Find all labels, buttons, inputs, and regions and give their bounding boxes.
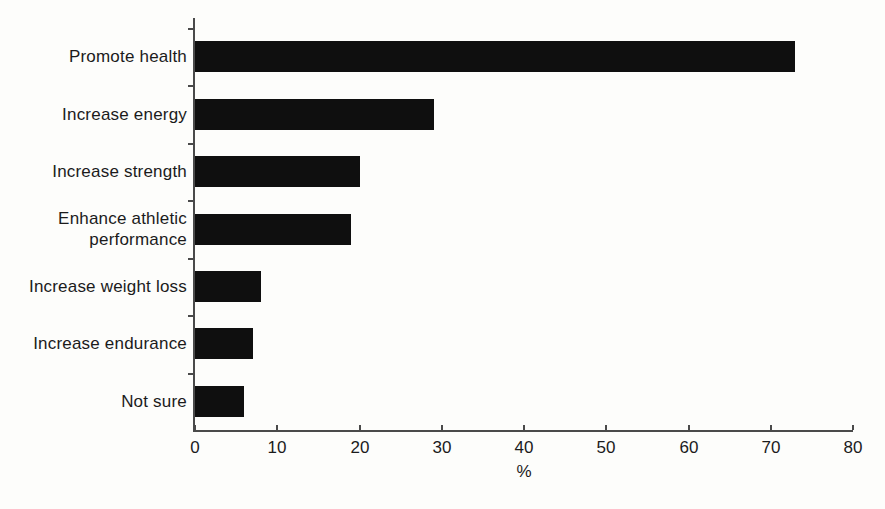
bar-increase-weight-loss bbox=[195, 271, 261, 302]
y-axis-tick bbox=[188, 28, 193, 30]
x-tick-label-50: 50 bbox=[584, 438, 628, 458]
y-axis-tick bbox=[188, 373, 193, 375]
category-label-not-sure: Not sure bbox=[20, 373, 187, 430]
x-tick-label-80: 80 bbox=[831, 438, 875, 458]
x-axis-tick bbox=[688, 425, 690, 430]
x-tick-label-40: 40 bbox=[502, 438, 546, 458]
bar-enhance-athletic-performance bbox=[195, 214, 351, 245]
x-tick-label-70: 70 bbox=[749, 438, 793, 458]
bar-increase-endurance bbox=[195, 328, 253, 359]
x-axis-tick bbox=[441, 425, 443, 430]
bar-increase-energy bbox=[195, 99, 434, 130]
x-tick-label-60: 60 bbox=[667, 438, 711, 458]
x-axis-tick bbox=[359, 425, 361, 430]
x-tick-label-30: 30 bbox=[420, 438, 464, 458]
y-axis-tick bbox=[188, 258, 193, 260]
x-axis-tick bbox=[852, 425, 854, 430]
x-tick-label-0: 0 bbox=[173, 438, 217, 458]
category-label-increase-energy: Increase energy bbox=[20, 85, 187, 142]
survey-bar-chart-figure: Promote healthIncrease energyIncrease st… bbox=[0, 0, 885, 509]
category-label-increase-weight-loss: Increase weight loss bbox=[20, 258, 187, 315]
x-tick-label-20: 20 bbox=[338, 438, 382, 458]
x-axis-line bbox=[193, 430, 853, 432]
x-tick-label-10: 10 bbox=[255, 438, 299, 458]
category-label-promote-health: Promote health bbox=[20, 28, 187, 85]
y-axis-tick bbox=[188, 143, 193, 145]
y-axis-tick bbox=[188, 85, 193, 87]
category-label-increase-strength: Increase strength bbox=[20, 143, 187, 200]
category-label-increase-endurance: Increase endurance bbox=[20, 315, 187, 372]
x-axis-title: % bbox=[494, 462, 554, 482]
plot-area: Promote healthIncrease energyIncrease st… bbox=[0, 0, 885, 509]
x-axis-tick bbox=[770, 425, 772, 430]
category-label-enhance-athletic-performance: Enhance athletic performance bbox=[20, 200, 187, 257]
x-axis-tick bbox=[194, 425, 196, 430]
x-axis-tick bbox=[523, 425, 525, 430]
y-axis-tick bbox=[188, 315, 193, 317]
bar-not-sure bbox=[195, 386, 244, 417]
x-axis-tick bbox=[605, 425, 607, 430]
bar-promote-health bbox=[195, 41, 795, 72]
bar-increase-strength bbox=[195, 156, 360, 187]
x-axis-tick bbox=[276, 425, 278, 430]
y-axis-tick bbox=[188, 200, 193, 202]
